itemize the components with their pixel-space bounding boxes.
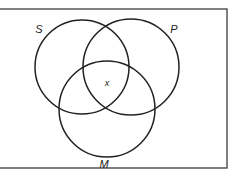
region-mark: x	[104, 78, 110, 88]
set-label-m: M	[99, 158, 109, 170]
set-label-p: P	[170, 23, 178, 35]
set-circle-s	[35, 20, 129, 114]
set-label-s: S	[35, 23, 43, 35]
venn-diagram: SPM x	[0, 0, 238, 175]
